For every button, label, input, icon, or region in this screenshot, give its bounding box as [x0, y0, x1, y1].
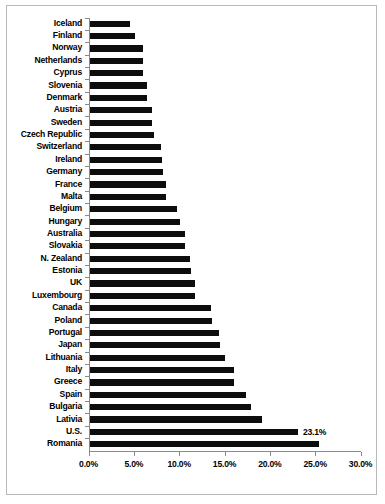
- category-label: Romania: [2, 439, 82, 448]
- bar: [89, 82, 147, 88]
- bar: [89, 243, 185, 249]
- x-axis-tickmark: [225, 452, 226, 456]
- bar: [89, 416, 262, 422]
- bar: [89, 21, 131, 27]
- category-label: Japan: [2, 340, 82, 349]
- category-label: Lithuania: [2, 353, 82, 362]
- bar: [89, 392, 247, 398]
- category-label: Denmark: [2, 93, 82, 102]
- x-axis-tick-label: 20.0%: [245, 459, 295, 469]
- bar: [89, 33, 135, 39]
- category-label: Australia: [2, 229, 82, 238]
- horizontal-bar-chart: IcelandFinlandNorwayNetherlandsCyprusSlo…: [0, 0, 385, 504]
- bar: [89, 280, 196, 286]
- category-label: Norway: [2, 43, 82, 52]
- category-label: Lativia: [2, 415, 82, 424]
- x-axis-tick-label: 30.0%: [336, 459, 385, 469]
- bar: [89, 404, 251, 410]
- bar: [89, 194, 167, 200]
- category-label: Germany: [2, 167, 82, 176]
- bar: [89, 355, 226, 361]
- bar: [89, 157, 162, 163]
- bar: [89, 256, 191, 262]
- category-label: Sweden: [2, 118, 82, 127]
- bar: [89, 95, 147, 101]
- category-label: Poland: [2, 316, 82, 325]
- bar: [89, 120, 152, 126]
- bar: [89, 330, 220, 336]
- category-label: U.S.: [2, 427, 82, 436]
- category-label: Ireland: [2, 155, 82, 164]
- bar: [89, 169, 163, 175]
- bar: [89, 268, 191, 274]
- category-label: Austria: [2, 105, 82, 114]
- category-label: N. Zealand: [2, 254, 82, 263]
- category-label: Slovenia: [2, 81, 82, 90]
- bar: [89, 342, 220, 348]
- bar: [89, 181, 166, 187]
- category-label: Hungary: [2, 217, 82, 226]
- bar: [89, 318, 212, 324]
- bar: [89, 231, 185, 237]
- category-label: France: [2, 180, 82, 189]
- category-label: Greece: [2, 377, 82, 386]
- x-axis-tickmark: [179, 452, 180, 456]
- category-label: Slovakia: [2, 241, 82, 250]
- category-label: Estonia: [2, 266, 82, 275]
- category-label: Luxembourg: [2, 291, 82, 300]
- category-label: Spain: [2, 390, 82, 399]
- bar: [89, 144, 162, 150]
- category-label: Iceland: [2, 19, 82, 28]
- bar: [89, 132, 154, 138]
- x-axis-tick-label: 15.0%: [200, 459, 250, 469]
- bar: [89, 45, 143, 51]
- category-label: Canada: [2, 303, 82, 312]
- category-label: Malta: [2, 192, 82, 201]
- bar: [89, 441, 319, 447]
- bar: [89, 429, 298, 435]
- bar: [89, 367, 235, 373]
- bar: [89, 219, 181, 225]
- bar-value-label: 23.1%: [303, 427, 326, 437]
- category-label: Italy: [2, 365, 82, 374]
- bar: [89, 58, 143, 64]
- category-label: Bulgaria: [2, 402, 82, 411]
- x-axis-tickmark: [315, 452, 316, 456]
- bar: [89, 206, 178, 212]
- category-label: Finland: [2, 31, 82, 40]
- x-axis-tick-label: 10.0%: [154, 459, 204, 469]
- category-label: Netherlands: [2, 56, 82, 65]
- category-label: Portugal: [2, 328, 82, 337]
- category-label: Czech Republic: [2, 130, 82, 139]
- bar: [89, 107, 152, 113]
- x-axis-tick-label: 25.0%: [290, 459, 340, 469]
- bar: [89, 305, 211, 311]
- bar: [89, 379, 235, 385]
- x-axis-tick-label: 5.0%: [109, 459, 159, 469]
- bar: [89, 70, 143, 76]
- x-axis-tickmark: [134, 452, 135, 456]
- y-axis-line: [89, 18, 90, 451]
- x-axis-tick-label: 0.0%: [64, 459, 114, 469]
- category-label: Switzerland: [2, 142, 82, 151]
- category-label: Belgium: [2, 204, 82, 213]
- category-label: Cyprus: [2, 68, 82, 77]
- x-axis-tickmark: [361, 452, 362, 456]
- x-axis-tickmark: [89, 452, 90, 456]
- category-label: UK: [2, 278, 82, 287]
- bar: [89, 293, 196, 299]
- x-axis-tickmark: [270, 452, 271, 456]
